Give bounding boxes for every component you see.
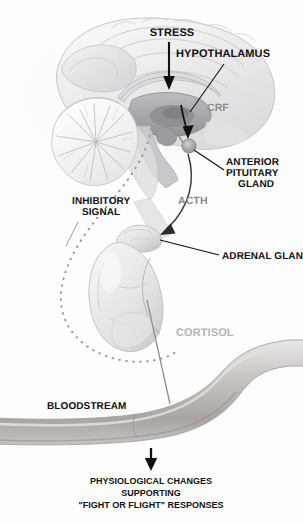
outcome-caption: PHYSIOLOGICAL CHANGES SUPPORTING "FIGHT …: [78, 476, 223, 512]
label-inhibitory-line2: SIGNAL: [72, 207, 130, 218]
label-hypothalamus: HYPOTHALAMUS: [176, 48, 270, 60]
hpa-axis-diagram: STRESS HYPOTHALAMUS CRF ANTERIOR PITUITA…: [0, 0, 303, 524]
label-anterior-pituitary-line1: ANTERIOR: [226, 157, 279, 168]
caption-line3: "FIGHT OR FLIGHT" RESPONSES: [78, 500, 223, 512]
cerebellum: [52, 98, 138, 186]
label-anterior-pituitary-line3: GLAND: [226, 179, 279, 190]
pituitary-gland-shape: [182, 139, 196, 153]
label-crf: CRF: [207, 103, 229, 115]
label-anterior-pituitary-gland: ANTERIOR PITUITARY GLAND: [226, 157, 279, 191]
label-acth: ACTH: [178, 196, 208, 208]
label-anterior-pituitary-line2: PITUITARY: [226, 168, 279, 179]
caption-line1: PHYSIOLOGICAL CHANGES: [78, 476, 223, 488]
label-inhibitory-signal: INHIBITORY SIGNAL: [72, 196, 130, 218]
caption-line2: SUPPORTING: [78, 488, 223, 500]
label-bloodstream: BLOODSTREAM: [47, 401, 126, 412]
label-inhibitory-line1: INHIBITORY: [72, 196, 130, 207]
label-stress: STRESS: [150, 27, 195, 39]
label-adrenal-gland: ADRENAL GLAND: [222, 251, 303, 262]
label-cortisol: CORTISOL: [176, 327, 234, 339]
